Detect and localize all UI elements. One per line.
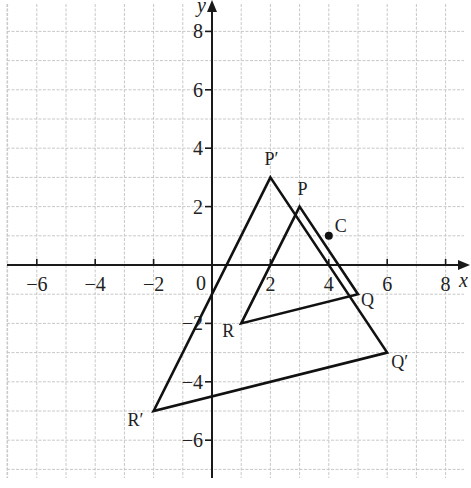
y-tick-label: 6: [193, 79, 203, 101]
coordinate-plane: xy −6−4−202468−6−4−22468 PQRP′Q′R′C: [0, 0, 471, 488]
grid-lines: [7, 4, 464, 478]
origin-label: 0: [196, 272, 206, 294]
y-axis-arrow-icon: [207, 0, 217, 12]
x-tick-label: 4: [324, 273, 334, 295]
y-tick-label: −4: [182, 371, 203, 393]
y-axis-label: y: [195, 0, 206, 17]
points: [325, 232, 333, 240]
x-tick-label: −6: [26, 273, 47, 295]
y-tick-label: 4: [193, 137, 203, 159]
vertex-label-r: R: [222, 321, 234, 341]
point-c-dot: [325, 232, 333, 240]
y-tick-label: 2: [193, 196, 203, 218]
vertex-label-p: P: [298, 179, 308, 199]
vertex-label-q-prime: Q′: [391, 352, 408, 372]
x-tick-label: 6: [382, 273, 392, 295]
vertex-label-q: Q: [361, 290, 374, 310]
x-axis-label: x: [458, 269, 468, 291]
y-tick-label: −6: [182, 429, 203, 451]
x-tick-label: 8: [441, 273, 451, 295]
y-tick-label: 8: [193, 20, 203, 42]
vertex-label-c: C: [335, 216, 347, 236]
x-tick-label: −2: [143, 273, 164, 295]
x-tick-label: 2: [265, 273, 275, 295]
vertex-label-p-prime: P′: [264, 149, 278, 169]
vertex-label-r-prime: R′: [128, 410, 144, 430]
x-tick-label: −4: [85, 273, 106, 295]
